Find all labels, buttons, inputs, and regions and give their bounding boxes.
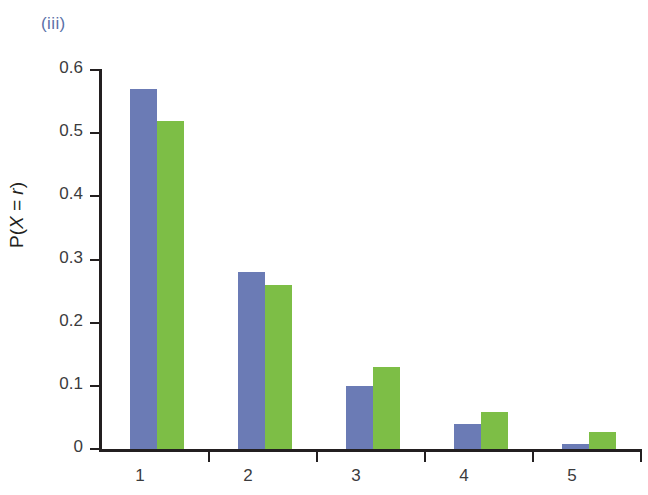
y-axis-tick-label: 0.2 xyxy=(59,311,83,331)
x-axis-line xyxy=(99,449,642,452)
y-axis-tick-label: 0.1 xyxy=(59,374,83,394)
x-axis-tick xyxy=(532,451,534,462)
y-axis-tick: 0.4 xyxy=(90,195,100,197)
y-axis-tick: 0.6 xyxy=(90,69,100,71)
bar xyxy=(562,444,589,449)
bar xyxy=(157,121,184,449)
bar xyxy=(454,424,481,449)
y-axis-tick-label: 0.4 xyxy=(59,184,83,204)
bar xyxy=(130,89,157,449)
y-axis-tick: 0 xyxy=(90,448,100,450)
figure-panel: (iii) P(X = r) 00.10.20.30.40.50.6 12345 xyxy=(0,0,648,495)
y-axis-tick: 0.1 xyxy=(90,385,100,387)
y-axis-title-prefix: P( xyxy=(6,229,27,248)
x-axis-tick-label: 2 xyxy=(243,466,252,486)
y-axis-tick: 0.5 xyxy=(90,132,100,134)
bar xyxy=(481,412,508,449)
y-axis-tick-label: 0.3 xyxy=(59,248,83,268)
x-axis-tick-label: 5 xyxy=(567,466,576,486)
x-axis-tick-label: 1 xyxy=(135,466,144,486)
bar xyxy=(589,432,616,449)
x-axis-tick-label: 4 xyxy=(459,466,468,486)
y-axis-tick-label: 0 xyxy=(74,437,83,457)
y-axis-tick-label: 0.5 xyxy=(59,121,83,141)
bar xyxy=(346,386,373,449)
x-axis-tick xyxy=(316,451,318,462)
y-axis-title-equals: = xyxy=(6,195,27,217)
x-axis-tick xyxy=(208,451,210,462)
bar xyxy=(238,272,265,449)
part-label: (iii) xyxy=(41,14,66,34)
y-axis-title: P(X = r) xyxy=(6,182,28,248)
y-axis-title-suffix: ) xyxy=(6,182,27,188)
y-axis-tick-label: 0.6 xyxy=(59,58,83,78)
x-axis-tick-label: 3 xyxy=(351,466,360,486)
bar xyxy=(265,285,292,449)
bar xyxy=(373,367,400,449)
y-axis-tick: 0.2 xyxy=(90,322,100,324)
x-axis-tick xyxy=(424,451,426,462)
y-axis-tick: 0.3 xyxy=(90,259,100,261)
y-axis-title-value: r xyxy=(6,188,27,194)
y-axis-title-variable: X xyxy=(6,216,27,229)
x-axis-tick xyxy=(640,451,642,462)
plot-area: 00.10.20.30.40.50.6 12345 xyxy=(101,70,641,449)
